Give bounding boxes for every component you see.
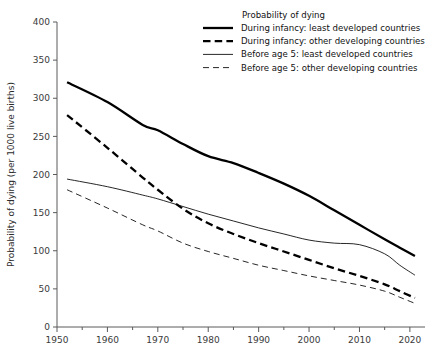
chart-figure: 0501001502002503003504001950196019701980…: [0, 0, 439, 355]
y-tick-label: 100: [33, 246, 50, 256]
y-tick-label: 350: [33, 55, 50, 65]
x-tick-label: 1990: [247, 335, 270, 345]
chart-svg: 0501001502002503003504001950196019701980…: [0, 0, 439, 355]
series-line-0: [67, 82, 415, 256]
legend-label-0: During infancy: least developed countrie…: [241, 23, 421, 33]
y-tick-label: 250: [33, 132, 50, 142]
x-tick-label: 2000: [298, 335, 321, 345]
x-tick-label: 2010: [348, 335, 371, 345]
legend-label-2: Before age 5: least developed countries: [241, 49, 413, 59]
series-group: [67, 82, 415, 303]
y-tick-label: 0: [44, 322, 50, 332]
legend-label-3: Before age 5: other developing countries: [241, 63, 418, 73]
x-tick-label: 1950: [46, 335, 69, 345]
legend-label-1: During infancy: other developing countri…: [241, 36, 425, 46]
y-tick-label: 50: [39, 284, 51, 294]
series-line-1: [67, 115, 415, 298]
y-tick-label: 150: [33, 208, 50, 218]
y-tick-label: 400: [33, 17, 50, 27]
series-line-3: [67, 190, 415, 304]
x-tick-label: 1980: [197, 335, 220, 345]
y-tick-label: 300: [33, 93, 50, 103]
y-axis-label: Probability of dying (per 1000 live birt…: [6, 82, 16, 267]
x-tick-label: 2020: [398, 335, 421, 345]
x-tick-label: 1960: [96, 335, 119, 345]
legend-title: Probability of dying: [242, 10, 325, 20]
x-tick-label: 1970: [146, 335, 169, 345]
y-tick-label: 200: [33, 170, 50, 180]
legend-group: Probability of dyingDuring infancy: leas…: [203, 10, 425, 73]
